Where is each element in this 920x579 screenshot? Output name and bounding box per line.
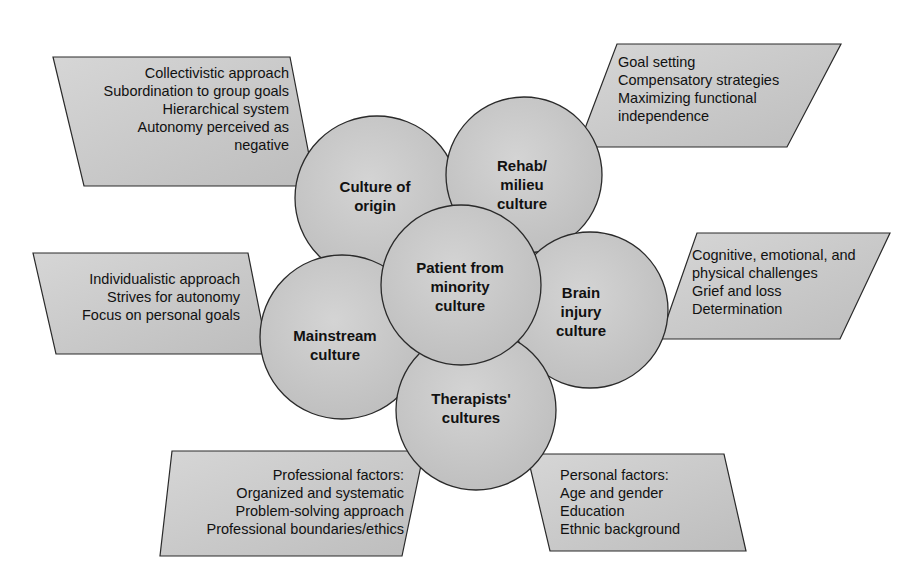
box-text-mainstream: Individualistic approach Strives for aut… — [82, 270, 240, 324]
label-line: Rehab/ — [497, 156, 547, 175]
box-line: negative — [104, 136, 289, 154]
box-text-rehab-milieu: Goal setting Compensatory strategies Max… — [618, 53, 779, 125]
box-line: Maximizing functional — [618, 89, 779, 107]
box-line: Subordination to group goals — [104, 82, 289, 100]
box-line: Determination — [692, 300, 856, 318]
label-line: Therapists' — [431, 389, 510, 408]
label-line: Patient from — [416, 258, 504, 277]
box-line: Cognitive, emotional, and — [692, 246, 856, 264]
label-line: culture — [556, 321, 606, 340]
box-line: Hierarchical system — [104, 100, 289, 118]
box-line: Goal setting — [618, 53, 779, 71]
box-line: Ethnic background — [560, 520, 680, 538]
box-line: Professional boundaries/ethics — [207, 520, 404, 538]
label-brain-injury: Brain injury culture — [556, 283, 606, 340]
box-line: Compensatory strategies — [618, 71, 779, 89]
label-line: cultures — [431, 408, 510, 427]
label-line: minority — [416, 277, 504, 296]
label-line: Mainstream — [293, 326, 376, 345]
box-line: Personal factors: — [560, 466, 680, 484]
label-line: culture — [416, 296, 504, 315]
label-patient: Patient from minority culture — [416, 258, 504, 315]
label-line: Brain — [556, 283, 606, 302]
label-line: milieu — [497, 175, 547, 194]
label-line: culture — [497, 194, 547, 213]
box-text-professional: Professional factors: Organized and syst… — [207, 466, 404, 538]
label-rehab-milieu: Rehab/ milieu culture — [497, 156, 547, 213]
label-therapists: Therapists' cultures — [431, 389, 510, 427]
box-line: Strives for autonomy — [82, 288, 240, 306]
label-line: injury — [556, 302, 606, 321]
box-line: Autonomy perceived as — [104, 118, 289, 136]
label-line: origin — [340, 196, 411, 215]
box-line: Problem-solving approach — [207, 502, 404, 520]
label-line: culture — [293, 345, 376, 364]
label-line: Culture of — [340, 177, 411, 196]
box-line: Age and gender — [560, 484, 680, 502]
box-line: Education — [560, 502, 680, 520]
box-text-brain-injury: Cognitive, emotional, and physical chall… — [692, 246, 856, 318]
label-culture-of-origin: Culture of origin — [340, 177, 411, 215]
box-line: independence — [618, 107, 779, 125]
box-line: Collectivistic approach — [104, 64, 289, 82]
box-line: Grief and loss — [692, 282, 856, 300]
box-line: Professional factors: — [207, 466, 404, 484]
box-line: physical challenges — [692, 264, 856, 282]
box-line: Individualistic approach — [82, 270, 240, 288]
box-line: Focus on personal goals — [82, 306, 240, 324]
box-text-personal: Personal factors: Age and gender Educati… — [560, 466, 680, 538]
label-mainstream: Mainstream culture — [293, 326, 376, 364]
box-line: Organized and systematic — [207, 484, 404, 502]
box-text-culture-of-origin: Collectivistic approach Subordination to… — [104, 64, 289, 154]
